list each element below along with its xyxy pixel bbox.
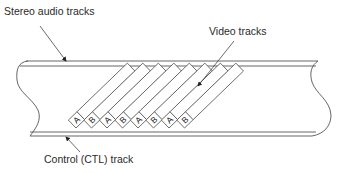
video-track-stripes: ABABABAB xyxy=(68,63,243,128)
video-tracks-label: Video tracks xyxy=(209,25,267,37)
tape-bottom-edge xyxy=(30,132,316,136)
videotape-track-diagram: ABABABAB Stereo audio tracks Video track… xyxy=(0,0,344,173)
tape-top-edge xyxy=(20,61,318,66)
control-track-leader xyxy=(66,137,80,152)
stereo-audio-label: Stereo audio tracks xyxy=(4,5,94,17)
tape-right-edge xyxy=(311,61,331,136)
control-track-label: Control (CTL) track xyxy=(44,153,134,165)
stereo-audio-leader xyxy=(40,26,66,61)
tape-left-edge xyxy=(17,61,40,136)
